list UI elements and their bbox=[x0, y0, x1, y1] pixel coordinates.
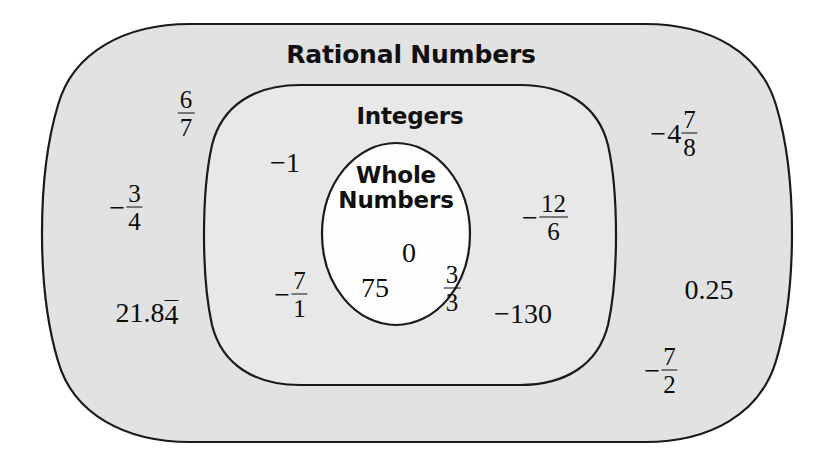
fraction-denominator: 8 bbox=[681, 134, 698, 160]
number-twenty-one-point-eight-four-repeating[interactable]: 21.84 bbox=[116, 299, 179, 329]
minus-sign: − bbox=[644, 356, 660, 384]
number-neg-seven-halves[interactable]: −72 bbox=[644, 344, 677, 397]
fraction-numerator: 3 bbox=[444, 262, 461, 289]
fraction: 126 bbox=[539, 191, 568, 244]
repeating-decimal: 21.84 bbox=[116, 299, 179, 329]
number-value: 75 bbox=[361, 274, 389, 302]
fraction: 71 bbox=[291, 268, 308, 321]
fraction-denominator: 7 bbox=[178, 114, 195, 140]
number-neg-four-and-seven-eighths[interactable]: −478 bbox=[650, 107, 697, 160]
fraction: 78 bbox=[681, 107, 698, 160]
fraction-numerator: 3 bbox=[126, 181, 143, 208]
fraction: 34 bbox=[126, 181, 143, 234]
fraction-numerator: 7 bbox=[681, 107, 698, 134]
fraction-numerator: 6 bbox=[178, 87, 195, 114]
number-neg-one-hundred-thirty[interactable]: −130 bbox=[494, 300, 552, 328]
number-neg-one[interactable]: −1 bbox=[270, 149, 300, 177]
fraction-denominator: 4 bbox=[126, 208, 143, 234]
number-zero[interactable]: 0 bbox=[402, 239, 416, 267]
fraction-numerator: 12 bbox=[539, 191, 568, 218]
number-neg-seven-over-one[interactable]: −71 bbox=[274, 268, 307, 321]
integers-label: Integers bbox=[356, 103, 463, 129]
repeating-decimal-vinculum-digit: 4 bbox=[165, 300, 179, 329]
minus-sign: − bbox=[274, 280, 290, 308]
fraction-numerator: 7 bbox=[291, 268, 308, 295]
number-neg-three-fourths[interactable]: −34 bbox=[109, 181, 142, 234]
number-value: 0.25 bbox=[685, 276, 734, 304]
fraction-denominator: 1 bbox=[291, 295, 308, 321]
repeating-decimal-prefix: 21.8 bbox=[116, 299, 165, 327]
minus-sign: − bbox=[109, 193, 125, 221]
number-value: −130 bbox=[494, 300, 552, 328]
fraction: 72 bbox=[661, 344, 678, 397]
rational-numbers-label: Rational Numbers bbox=[286, 40, 535, 69]
number-zero-point-two-five[interactable]: 0.25 bbox=[685, 276, 734, 304]
fraction: 67 bbox=[178, 87, 195, 140]
whole-numbers-label: Whole Numbers bbox=[338, 163, 453, 213]
number-three-thirds[interactable]: 33 bbox=[444, 262, 461, 315]
number-neg-twelve-sixths[interactable]: −126 bbox=[522, 191, 568, 244]
number-seventy-five[interactable]: 75 bbox=[361, 274, 389, 302]
whole-numbers-label-line2: Numbers bbox=[338, 188, 453, 213]
fraction-denominator: 2 bbox=[661, 371, 678, 397]
mixed-number-whole-part: 4 bbox=[667, 119, 681, 147]
number-six-sevenths[interactable]: 67 bbox=[178, 87, 195, 140]
fraction: 33 bbox=[444, 262, 461, 315]
fraction-numerator: 7 bbox=[661, 344, 678, 371]
minus-sign: − bbox=[522, 203, 538, 231]
number-value: −1 bbox=[270, 149, 300, 177]
whole-numbers-label-line1: Whole bbox=[338, 163, 453, 188]
number-sets-diagram: Rational Numbers Integers Whole Numbers … bbox=[0, 0, 823, 463]
number-value: 0 bbox=[402, 239, 416, 267]
fraction-denominator: 6 bbox=[545, 218, 562, 244]
minus-sign: − bbox=[650, 119, 666, 147]
fraction-denominator: 3 bbox=[444, 289, 461, 315]
